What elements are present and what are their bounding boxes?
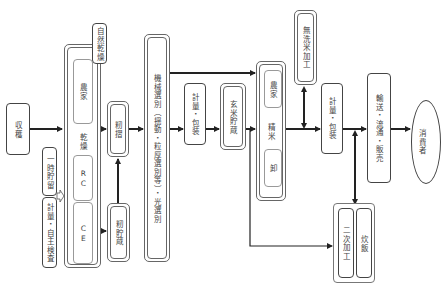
drying-rc-node: RC bbox=[73, 155, 93, 201]
weighing-packing-1-label: 計量・包装 bbox=[191, 93, 199, 136]
sorting-node: 機械選別（揺動・粒厚選別等）・光選別 bbox=[144, 34, 170, 262]
temporary-storage-node: 一時貯留 bbox=[42, 147, 57, 196]
weighing-packing-2-label: 計量・包装 bbox=[328, 97, 336, 140]
cooked-rice-node: 炊飯 bbox=[356, 208, 372, 278]
drying-rc-label: RC bbox=[79, 169, 87, 188]
temporary-storage-label: 一時貯留 bbox=[46, 155, 54, 189]
secondary-processing-node: 二次加工 bbox=[338, 208, 354, 278]
consumer-label: 消費者 bbox=[418, 129, 426, 155]
polishing-wholesale-label: 卸 bbox=[269, 164, 277, 173]
weighing-inspection-node: 計量・自主検査 bbox=[42, 197, 57, 268]
drying-farmer-label: 農家 bbox=[79, 83, 87, 100]
weighing-inspection-label: 計量・自主検査 bbox=[46, 203, 54, 263]
wash-free-processing-label: 無洗米加工 bbox=[302, 26, 310, 69]
harvest-label: 収穫 bbox=[14, 121, 22, 138]
polishing-farmer-node: 農家 bbox=[264, 70, 282, 108]
consumer-node: 消費者 bbox=[411, 100, 441, 184]
transport-label: 輸送・流通・販売 bbox=[375, 94, 383, 162]
weighing-packing-2-node: 計量・包装 bbox=[321, 83, 343, 154]
hulling-node: 籾摺 bbox=[107, 101, 129, 157]
drying-farmer-node: 農家 bbox=[73, 59, 93, 124]
polishing-farmer-label: 農家 bbox=[269, 81, 277, 98]
drying-label-wrap: 乾燥 bbox=[68, 126, 97, 156]
natural-drying-label: 自然乾燥 bbox=[96, 27, 104, 61]
paddy-storage-label: 籾貯蔵 bbox=[115, 220, 123, 246]
brown-rice-storage-label: 玄米貯蔵 bbox=[229, 100, 237, 134]
transport-node: 輸送・流通・販売 bbox=[367, 73, 391, 183]
sorting-label: 機械選別（揺動・粒厚選別等）・光選別 bbox=[153, 74, 161, 223]
drying-ce-node: CE bbox=[73, 202, 93, 264]
harvest-node: 収穫 bbox=[6, 103, 30, 155]
natural-drying-node: 自然乾燥 bbox=[92, 23, 107, 64]
wash-free-processing-node: 無洗米加工 bbox=[294, 10, 317, 85]
polishing-label: 精米 bbox=[267, 123, 275, 140]
paddy-storage-node: 籾貯蔵 bbox=[107, 203, 130, 262]
drying-label: 乾燥 bbox=[79, 133, 87, 150]
cooked-rice-label: 炊飯 bbox=[360, 235, 368, 252]
polishing-wholesale-node: 卸 bbox=[264, 149, 282, 187]
drying-node: 農家 乾燥 RC CE bbox=[64, 44, 101, 268]
brown-rice-storage-node: 玄米貯蔵 bbox=[220, 83, 246, 150]
secondary-group-node: 二次加工 炊飯 bbox=[333, 203, 375, 283]
secondary-processing-label: 二次加工 bbox=[342, 226, 350, 260]
drying-ce-label: CE bbox=[79, 224, 87, 243]
polishing-node: 農家 精米 卸 bbox=[256, 61, 286, 201]
weighing-packing-1-node: 計量・包装 bbox=[184, 83, 206, 145]
polishing-label-wrap: 精米 bbox=[260, 113, 282, 149]
hulling-label: 籾摺 bbox=[114, 121, 122, 138]
